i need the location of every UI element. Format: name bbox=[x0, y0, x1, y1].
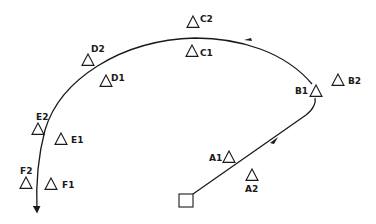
marker-label-b1: B1 bbox=[295, 86, 308, 96]
triangle-marker-icon bbox=[55, 133, 67, 144]
triangle-marker-icon bbox=[310, 85, 322, 96]
direction-arrow-icon bbox=[244, 38, 252, 41]
triangle-marker-icon bbox=[82, 54, 94, 65]
route-path bbox=[37, 38, 316, 212]
marker-label-d2: D2 bbox=[91, 44, 105, 54]
marker-label-d1: D1 bbox=[111, 73, 125, 83]
triangle-marker-icon bbox=[32, 123, 44, 134]
route-diagram: A1A2B1B2C1C2D1D2E1E2F1F2 bbox=[0, 0, 376, 224]
triangle-marker-icon bbox=[246, 169, 258, 180]
triangle-marker-icon bbox=[20, 177, 32, 188]
triangle-marker-icon bbox=[223, 151, 235, 162]
triangle-marker-icon bbox=[187, 16, 199, 27]
triangle-marker-icon bbox=[332, 74, 344, 85]
marker-label-b2: B2 bbox=[348, 76, 361, 86]
marker-label-f1: F1 bbox=[62, 180, 74, 190]
marker-label-e1: E1 bbox=[71, 135, 83, 145]
marker-label-e2: E2 bbox=[36, 112, 48, 122]
marker-group: A1A2B1B2C1C2D1D2E1E2F1F2 bbox=[20, 14, 361, 194]
triangle-marker-icon bbox=[186, 45, 198, 56]
marker-label-a1: A1 bbox=[209, 153, 222, 163]
marker-label-a2: A2 bbox=[245, 184, 258, 194]
triangle-marker-icon bbox=[45, 178, 57, 189]
marker-label-c2: C2 bbox=[200, 14, 213, 24]
start-square bbox=[179, 194, 193, 207]
marker-label-c1: C1 bbox=[200, 48, 213, 58]
marker-label-f2: F2 bbox=[20, 166, 32, 176]
